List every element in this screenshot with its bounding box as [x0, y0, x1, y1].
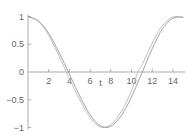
- x-tick-label: 12: [147, 76, 157, 86]
- line-chart: 10.50−0.5−12468101214t: [0, 0, 195, 140]
- x-tick-label: 2: [46, 76, 51, 86]
- x-tick-label: 14: [168, 76, 178, 86]
- chart: 10.50−0.5−12468101214t: [0, 0, 195, 140]
- y-tick-label: 1: [19, 12, 24, 22]
- y-tick-label: −0.5: [6, 95, 24, 105]
- x-tick-label: 8: [108, 76, 113, 86]
- y-tick-label: −1: [14, 123, 24, 133]
- y-tick-label: 0: [19, 67, 24, 77]
- y-tick-label: 0.5: [11, 39, 24, 49]
- x-tick-label: 6: [88, 76, 93, 86]
- x-axis-label: t: [99, 78, 102, 88]
